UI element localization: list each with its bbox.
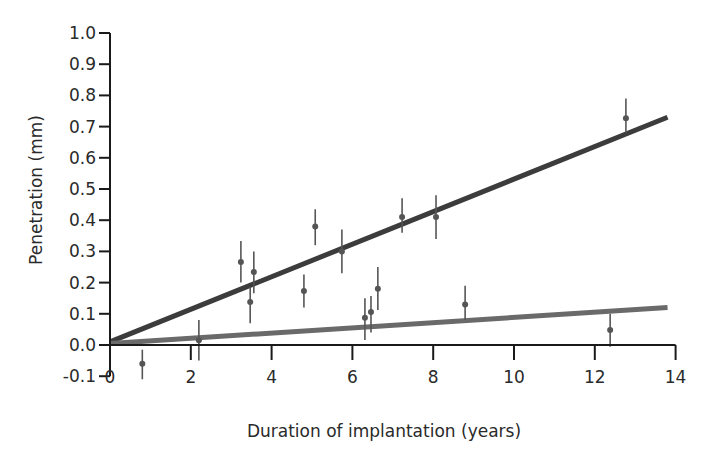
upper-trend-line [110,117,668,342]
point-marker [196,337,202,343]
data-point [301,274,307,307]
point-marker [247,299,253,305]
data-point [433,195,439,239]
x-tick-label: 10 [503,367,525,387]
x-axis-ticks: 02468101214 [105,345,687,387]
y-tick-label: 0.8 [69,85,96,105]
point-marker [312,223,318,229]
x-tick-label: 8 [428,367,439,387]
x-tick-label: 2 [185,367,196,387]
data-point [362,298,368,340]
y-axis-ticks: -0.10.00.10.20.30.40.50.60.70.80.91.0 [63,23,110,386]
data-point [607,314,613,347]
y-tick-label: 0.5 [69,179,96,199]
data-point [238,241,244,282]
point-marker [368,309,374,315]
point-marker [339,248,345,254]
trend-lines [110,117,668,343]
data-point [375,267,381,310]
point-marker [251,269,257,275]
y-tick-label: 0.7 [69,117,96,137]
y-tick-label: 0.4 [69,210,96,230]
point-marker [139,361,145,367]
x-tick-label: 14 [665,367,687,387]
point-marker [607,327,613,333]
data-point [339,230,345,274]
y-tick-label: -0.1 [63,366,96,386]
data-point [312,209,318,245]
point-marker [375,286,381,292]
point-marker [623,115,629,121]
y-tick-label: 0.9 [69,54,96,74]
y-tick-label: 0.2 [69,273,96,293]
lower-trend-line [110,308,668,344]
x-tick-label: 6 [347,367,358,387]
y-tick-label: 0.3 [69,241,96,261]
axes: -0.10.00.10.20.30.40.50.60.70.80.91.0 02… [63,23,687,387]
data-point [247,287,253,323]
point-marker [433,214,439,220]
point-marker [238,259,244,265]
y-tick-label: 1.0 [69,23,96,43]
x-tick-label: 4 [266,367,277,387]
y-tick-label: 0.1 [69,304,96,324]
x-tick-label: 12 [584,367,606,387]
x-tick-label: 0 [105,367,116,387]
x-axis-title: Duration of implantation (years) [247,421,521,441]
data-point [623,99,629,133]
data-point [462,286,468,320]
point-marker [399,214,405,220]
data-point [139,350,145,380]
point-marker [362,315,368,321]
point-marker [462,301,468,307]
scatter-chart: -0.10.00.10.20.30.40.50.60.70.80.91.0 02… [0,0,708,462]
point-marker [301,288,307,294]
y-axis-title: Penetration (mm) [26,115,46,265]
data-point [196,320,202,361]
y-tick-label: 0.0 [69,335,96,355]
y-tick-label: 0.6 [69,148,96,168]
